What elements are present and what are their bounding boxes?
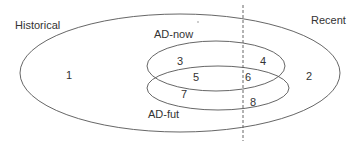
venn-diagram: Historical Recent AD-now AD-fut 1 2 3 4 … xyxy=(0,0,351,143)
region-label-4: 4 xyxy=(260,55,266,67)
ad-fut-ellipse xyxy=(147,66,289,110)
set-label-historical: Historical xyxy=(15,19,60,31)
region-label-6: 6 xyxy=(245,71,251,83)
set-label-ad-fut: AD-fut xyxy=(148,108,179,120)
region-label-5: 5 xyxy=(193,71,199,83)
region-label-1: 1 xyxy=(66,69,72,81)
region-label-3: 3 xyxy=(177,55,183,67)
stray-dot xyxy=(197,21,198,22)
region-label-2: 2 xyxy=(306,70,312,82)
set-label-ad-now: AD-now xyxy=(154,28,193,40)
region-label-8: 8 xyxy=(250,96,256,108)
region-label-7: 7 xyxy=(181,88,187,100)
set-label-recent: Recent xyxy=(311,14,346,26)
